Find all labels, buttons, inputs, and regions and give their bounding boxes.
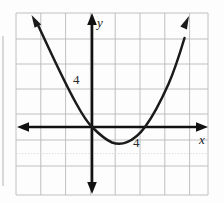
figure-container: y x 4 4 bbox=[0, 0, 224, 203]
curve-arrow-left bbox=[32, 15, 42, 28]
y-axis-arrow-up bbox=[87, 13, 97, 25]
x-axis-arrow-right bbox=[196, 122, 208, 132]
x-axis-label: x bbox=[199, 133, 205, 146]
parabola-curve bbox=[32, 15, 190, 144]
x-axis-arrow-left bbox=[17, 122, 29, 132]
axis-lines bbox=[24, 20, 200, 186]
x-axis-tick-label-4: 4 bbox=[133, 136, 140, 149]
coordinate-plane-graph bbox=[0, 0, 224, 203]
curve-arrow-right bbox=[180, 16, 189, 30]
y-axis-arrow-down bbox=[87, 182, 97, 194]
y-axis-label: y bbox=[97, 16, 103, 29]
y-axis-tick-label-4: 4 bbox=[73, 73, 80, 86]
